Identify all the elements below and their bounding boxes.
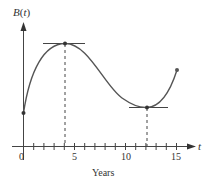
y-axis-arrow-icon	[21, 22, 27, 31]
chart: B(t) t 0 5 10 15 Years	[0, 0, 206, 184]
start-point	[22, 111, 26, 115]
x-axis-title: Years	[92, 167, 114, 178]
b-of-t-curve	[24, 43, 178, 113]
x-axis-arrow-icon	[187, 144, 196, 150]
tick-label-15: 15	[171, 151, 181, 162]
end-point	[175, 68, 179, 72]
tick-label-5: 5	[72, 151, 77, 162]
min-point	[145, 106, 149, 110]
y-axis-label: B(t)	[13, 6, 30, 19]
tick-label-0: 0	[19, 151, 24, 162]
tick-label-10: 10	[121, 151, 131, 162]
max-point	[63, 42, 67, 46]
x-axis-var: t	[198, 140, 202, 152]
